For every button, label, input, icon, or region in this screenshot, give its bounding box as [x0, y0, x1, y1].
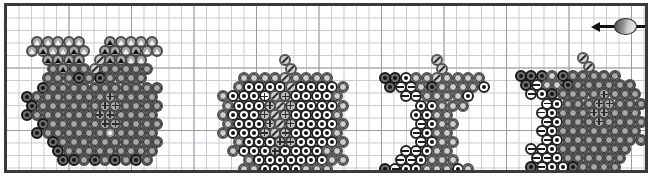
bead-symbol-dot-b-icon: [231, 113, 235, 117]
bead[interactable]: [405, 172, 417, 173]
bead-symbol-tri-f-icon: [118, 58, 124, 63]
bead-symbol-tri-o-icon: [144, 49, 150, 54]
bead-symbol-dot-b-icon: [383, 167, 387, 171]
horizontal-resize-slider[interactable]: [591, 18, 648, 35]
bead[interactable]: [415, 172, 427, 173]
bead-symbol-dot-b-icon: [419, 104, 423, 108]
bead-symbol-ring-icon: [637, 100, 645, 108]
bead[interactable]: [141, 154, 153, 166]
bead-symbol-ring-icon: [313, 165, 321, 173]
bead-symbol-dot-b-icon: [283, 149, 287, 153]
bead-symbol-dot-b-icon: [93, 158, 97, 162]
bead-symbol-dot-b-icon: [252, 149, 256, 153]
bead[interactable]: [541, 170, 553, 173]
bead-symbol-dot-b-icon: [550, 165, 554, 169]
bead-symbol-ring-icon: [229, 147, 237, 155]
bead-symbol-dash-icon: [538, 112, 545, 114]
bead-symbol-dot-b-icon: [294, 131, 298, 135]
bead-symbol-dash-icon: [397, 159, 404, 161]
slider-drag-handle[interactable]: [614, 18, 637, 35]
bead[interactable]: [635, 134, 647, 146]
bead-symbol-dot-b-icon: [263, 149, 267, 153]
bead-symbol-dash-icon: [528, 93, 535, 95]
bead-symbol-ring-icon: [423, 92, 431, 100]
bead[interactable]: [562, 170, 574, 173]
bead-symbol-dot-b-icon: [299, 122, 303, 126]
bead-symbol-dot-b-icon: [466, 94, 470, 98]
bead-symbol-ring-icon: [137, 74, 145, 82]
bead-symbol-dash-icon: [418, 123, 425, 125]
pattern-canvas[interactable]: [4, 3, 648, 173]
bead-symbol-ring-icon: [464, 165, 472, 173]
bead[interactable]: [321, 163, 333, 173]
bead-symbol-dash-icon: [392, 168, 399, 170]
bead[interactable]: [395, 172, 407, 173]
bead[interactable]: [436, 172, 448, 173]
bead-symbol-dot-b-icon: [550, 92, 554, 96]
bead[interactable]: [457, 172, 469, 173]
bead-symbol-dot-b-icon: [330, 104, 334, 108]
bead-symbol-dot-b-icon: [309, 140, 313, 144]
bead-symbol-dash-icon: [413, 150, 420, 152]
bead-symbol-dot-b-icon: [268, 85, 272, 89]
bead-symbol-dot-b-icon: [304, 131, 308, 135]
bead-symbol-dot-b-icon: [257, 85, 261, 89]
bead-symbol-dot-b-icon: [257, 122, 261, 126]
bead[interactable]: [551, 170, 563, 173]
bead-symbol-ring-icon: [449, 102, 457, 110]
bead-symbol-dot-b-icon: [252, 94, 256, 98]
bead-symbol-slash-icon: [282, 57, 289, 64]
bead-symbol-dot-b-icon: [41, 86, 45, 90]
bead-symbol-dot-w-icon: [108, 131, 112, 135]
bead-symbol-dash-icon: [544, 121, 551, 123]
bead-symbol-dot-b-icon: [242, 94, 246, 98]
bead[interactable]: [447, 172, 459, 173]
bead-symbol-dot-b-icon: [257, 140, 261, 144]
bead[interactable]: [151, 45, 163, 57]
bead[interactable]: [457, 100, 469, 112]
bead-symbol-dot-b-icon: [278, 158, 282, 162]
bead-symbol-tri-o-icon: [34, 40, 40, 45]
bead-symbol-tri-f-icon: [40, 49, 46, 54]
bead-symbol-ring-icon: [611, 90, 619, 98]
bead-symbol-dot-b-icon: [77, 76, 81, 80]
bead-symbol-dot-b-icon: [247, 122, 251, 126]
bead-symbol-ring-icon: [143, 156, 151, 164]
bead-symbol-dot-b-icon: [299, 158, 303, 162]
bead-symbol-dot-b-icon: [320, 158, 324, 162]
bead[interactable]: [478, 81, 490, 93]
bead-symbol-tri-o-icon: [55, 40, 61, 45]
bead-symbol-dot-b-icon: [315, 113, 319, 117]
bead[interactable]: [609, 161, 621, 173]
bead-symbol-ring-icon: [443, 165, 451, 173]
bead-symbol-tri-o-icon: [128, 58, 134, 63]
bead-symbol-ring-icon: [459, 102, 467, 110]
bead[interactable]: [337, 154, 349, 166]
bead-symbol-dot-b-icon: [30, 104, 34, 108]
bead-symbol-dot-b-icon: [283, 167, 287, 171]
bead[interactable]: [583, 170, 595, 173]
bead-symbol-dash-icon: [538, 148, 545, 150]
bead-symbol-dash-icon: [538, 166, 545, 168]
bead-symbol-slash-icon: [272, 111, 279, 118]
bead-symbol-dash-icon: [408, 159, 415, 161]
bead[interactable]: [426, 172, 438, 173]
bead-symbol-dot-b-icon: [540, 92, 544, 96]
bead-symbol-dot-b-icon: [231, 94, 235, 98]
bead-layer[interactable]: [7, 6, 645, 170]
bead-symbol-dot-b-icon: [561, 74, 565, 78]
bead-symbol-dot-b-icon: [555, 102, 559, 106]
bead-symbol-dot-b-icon: [56, 149, 60, 153]
bead-symbol-dash-icon: [402, 95, 409, 97]
bead-symbol-tri-o-icon: [123, 49, 129, 54]
bead[interactable]: [462, 163, 474, 173]
bead[interactable]: [593, 170, 605, 173]
bead-symbol-dot-b-icon: [242, 149, 246, 153]
bead[interactable]: [603, 170, 615, 173]
bead[interactable]: [572, 170, 584, 173]
bead-symbol-dot-b-icon: [555, 138, 559, 142]
bead-symbol-dot-b-icon: [304, 149, 308, 153]
bead-symbol-dot-b-icon: [425, 149, 429, 153]
bead-symbol-dot-b-icon: [309, 85, 313, 89]
bead-symbol-dash-icon: [418, 141, 425, 143]
